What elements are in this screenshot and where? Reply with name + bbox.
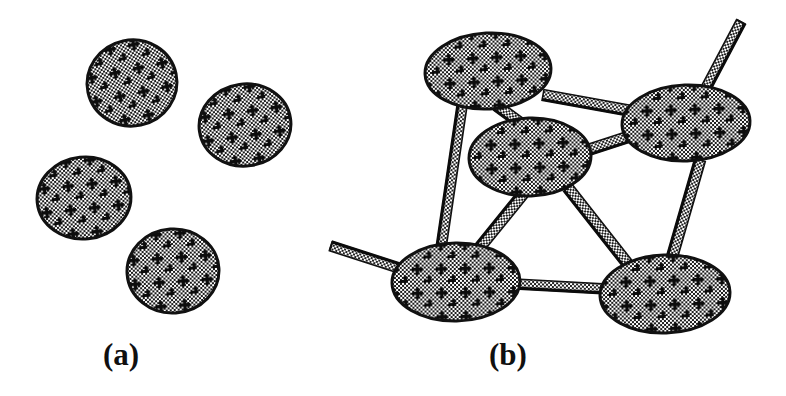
particle-a4 <box>124 226 222 316</box>
panel-label-b: (b) <box>489 339 527 370</box>
particle-a3 <box>33 152 135 243</box>
particle-b-bottom-left <box>391 242 520 322</box>
particle-a2 <box>194 78 297 172</box>
rod-free-left <box>329 241 400 273</box>
particle-b-top-left <box>423 30 553 112</box>
rod-right-to-bottomright <box>667 158 706 258</box>
particle-layer <box>33 30 751 335</box>
particle-b-bottom-right <box>599 253 732 335</box>
particle-a1 <box>79 32 185 135</box>
rod-topleft-to-bottomleft <box>436 105 467 248</box>
panel-label-a: (a) <box>103 339 139 370</box>
rod-center-to-bottomright <box>564 185 632 267</box>
rod-center-to-bottomleft <box>476 190 528 250</box>
rod-free-upper-right <box>701 20 746 93</box>
particle-b-right <box>621 83 752 163</box>
figure-canvas: (a) (b) <box>0 0 786 396</box>
rod-bottomleft-to-bottomright <box>516 279 607 294</box>
